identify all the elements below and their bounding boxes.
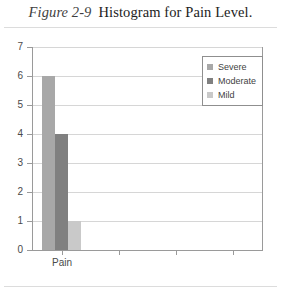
legend-item-severe[interactable]: Severe [207, 61, 258, 73]
x-axis-tick [233, 250, 234, 255]
y-axis-tick [27, 221, 32, 222]
y-axis-tick-label: 7 [1, 42, 23, 52]
y-axis-tick [27, 134, 32, 135]
y-axis-tick-label: 2 [1, 187, 23, 197]
x-axis-tick [176, 250, 177, 255]
legend-label: Mild [218, 91, 235, 100]
legend-swatch-icon [207, 92, 213, 98]
histogram-chart: 01234567 Pain SevereModerateMild [0, 34, 281, 282]
y-axis-tick-label: 6 [1, 71, 23, 81]
caption-divider [4, 27, 277, 28]
legend-swatch-icon [207, 64, 213, 70]
figure-title: Histogram for Pain Level. [98, 4, 252, 21]
bottom-divider [4, 286, 277, 287]
y-axis-tick [27, 192, 32, 193]
y-axis-tick [27, 163, 32, 164]
figure-number: Figure 2-9 [29, 4, 92, 21]
legend-label: Severe [218, 63, 247, 72]
bar-severe [42, 76, 55, 250]
y-axis-tick [27, 76, 32, 77]
y-axis-tick-label: 0 [1, 245, 23, 255]
y-axis-tick [27, 250, 32, 251]
y-axis-tick [27, 47, 32, 48]
legend-item-mild[interactable]: Mild [207, 89, 258, 101]
bar-mild [68, 221, 81, 250]
x-axis-category-label: Pain [52, 257, 72, 268]
x-axis-line [32, 250, 263, 251]
bar-moderate [55, 134, 68, 250]
legend-label: Moderate [218, 77, 256, 86]
legend-swatch-icon [207, 78, 213, 84]
figure-caption: Figure 2-9 Histogram for Pain Level. [0, 0, 281, 24]
x-axis-tick [119, 250, 120, 255]
y-axis-tick-label: 3 [1, 158, 23, 168]
x-axis-tick [62, 250, 63, 255]
y-axis-tick-label: 4 [1, 129, 23, 139]
y-axis-tick [27, 105, 32, 106]
y-axis-tick-label: 1 [1, 216, 23, 226]
y-axis-tick-label: 5 [1, 100, 23, 110]
legend-item-moderate[interactable]: Moderate [207, 75, 258, 87]
chart-legend: SevereModerateMild [202, 56, 263, 106]
